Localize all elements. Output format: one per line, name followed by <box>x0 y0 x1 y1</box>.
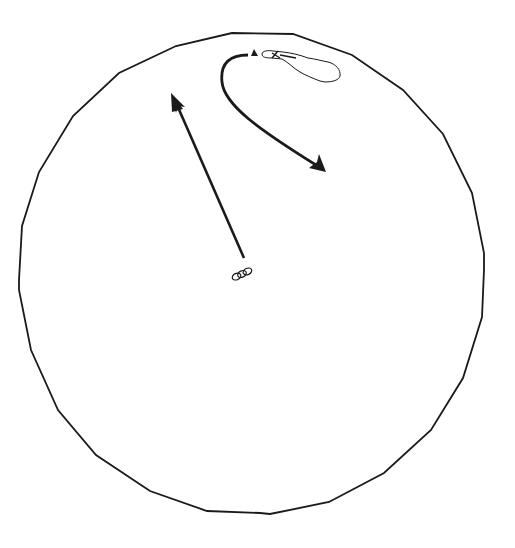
diagram-canvas <box>0 0 515 548</box>
origin-chain-icon <box>231 267 253 282</box>
triangle-marker-icon <box>251 49 258 56</box>
circular-boundary <box>19 33 484 514</box>
lake-outline <box>262 51 340 82</box>
curved-arrow <box>222 55 326 172</box>
straight-arrow <box>171 93 244 258</box>
